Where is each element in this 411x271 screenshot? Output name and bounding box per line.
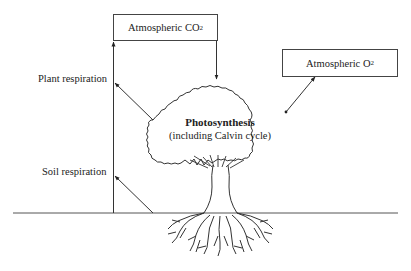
tree-roots (168, 213, 273, 256)
tree-trunk (204, 165, 237, 213)
soil-respiration-arrow (115, 176, 153, 213)
co2-subscript: 2 (199, 24, 203, 32)
photosynthesis-label-group: Photosynthesis (including Calvin cycle) (150, 116, 290, 141)
soil-respiration-label: Soil respiration (42, 167, 106, 178)
o2-subscript: 2 (370, 59, 374, 67)
canopy-to-o2-arrow (286, 77, 315, 112)
photosynthesis-title: Photosynthesis (150, 116, 290, 128)
atmospheric-co2-box: Atmospheric CO2 (113, 14, 218, 41)
plant-respiration-arrow (115, 83, 153, 120)
atmospheric-o2-box: Atmospheric O2 (282, 49, 398, 77)
photosynthesis-subtitle: (including Calvin cycle) (150, 130, 290, 141)
atmospheric-o2-label: Atmospheric O (306, 58, 370, 69)
atmospheric-co2-label: Atmospheric CO (128, 22, 199, 33)
plant-respiration-label: Plant respiration (38, 74, 107, 85)
